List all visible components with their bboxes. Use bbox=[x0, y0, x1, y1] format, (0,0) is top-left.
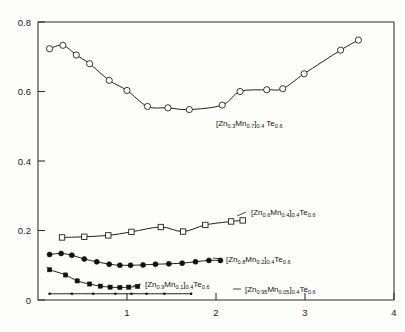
x-tick-label-1: 1 bbox=[124, 307, 129, 318]
series-2 bbox=[47, 251, 223, 268]
series-1-point-7 bbox=[228, 219, 233, 224]
series-4-point-2 bbox=[92, 292, 95, 295]
series-2-point-5 bbox=[107, 262, 112, 267]
series-2-point-1 bbox=[59, 251, 64, 256]
series-3-point-2 bbox=[75, 279, 79, 283]
series-4 bbox=[48, 292, 192, 295]
series-0-point-12 bbox=[280, 86, 286, 92]
series-2-point-6 bbox=[117, 263, 122, 268]
series-4-point-6 bbox=[163, 292, 166, 295]
series-1-point-2 bbox=[106, 233, 111, 238]
series-label-zn08mn02: [Zn0.8Mn0.2]0.4Te0.6 bbox=[226, 255, 291, 265]
series-3-point-3 bbox=[88, 282, 92, 286]
series-4-point-0 bbox=[48, 292, 51, 295]
scatter-line-chart: 0 0.2 0.4 0.6 0.8 1 2 3 4 [Zn0.3Mn0.7]0.… bbox=[0, 0, 405, 332]
series-0-point-0 bbox=[46, 46, 52, 52]
series-2-point-12 bbox=[193, 259, 198, 264]
figure-canvas: 0 0.2 0.4 0.6 0.8 1 2 3 4 [Zn0.3Mn0.7]0.… bbox=[0, 0, 405, 332]
series-2-point-7 bbox=[128, 263, 133, 268]
series-0 bbox=[46, 37, 361, 113]
series-0-point-10 bbox=[237, 88, 243, 94]
series-3-point-0 bbox=[47, 268, 51, 272]
series-annotations: [Zn0.3Mn0.7]0.4 Te0.6 [Zn0.6Mn0.4]0.4Te0… bbox=[145, 119, 316, 295]
series-4-point-3 bbox=[114, 292, 117, 295]
y-axis-tick-labels: 0 0.2 0.4 0.6 0.8 bbox=[18, 17, 31, 306]
series-0-point-6 bbox=[144, 103, 150, 109]
series-0-point-4 bbox=[106, 77, 112, 83]
series-0-point-15 bbox=[355, 37, 361, 43]
series-0-point-2 bbox=[73, 52, 79, 58]
series-0-point-8 bbox=[186, 106, 192, 112]
series-3-point-1 bbox=[63, 273, 67, 277]
series-label-zn06mn04: [Zn0.6Mn0.4]0.4Te0.6 bbox=[251, 208, 316, 218]
x-tick-label-3: 3 bbox=[302, 307, 307, 318]
series-0-point-13 bbox=[301, 71, 307, 77]
y-axis-ticks bbox=[38, 22, 45, 300]
series-3-point-4 bbox=[98, 284, 102, 288]
x-tick-label-2: 2 bbox=[213, 307, 218, 318]
series-0-point-11 bbox=[264, 87, 270, 93]
series-2-point-13 bbox=[206, 258, 211, 263]
series-4-point-4 bbox=[130, 292, 133, 295]
series-1-point-3 bbox=[129, 229, 134, 234]
y-tick-label-0: 0 bbox=[26, 295, 31, 306]
series-1-point-1 bbox=[82, 234, 87, 239]
series-4-point-5 bbox=[145, 292, 148, 295]
series-2-point-2 bbox=[69, 253, 74, 258]
series-4-point-7 bbox=[190, 292, 193, 295]
leader-zn06mn04 bbox=[237, 212, 246, 216]
series-label-zn03mn07: [Zn0.3Mn0.7]0.4 Te0.6 bbox=[216, 119, 283, 129]
series-label-zn09mn01: [Zn0.9Mn0.1]0.4Te0.6 bbox=[145, 280, 210, 290]
series-0-point-14 bbox=[338, 47, 344, 53]
data-series-layer bbox=[46, 37, 361, 295]
series-2-point-0 bbox=[47, 252, 52, 257]
series-2-point-4 bbox=[94, 259, 99, 264]
y-tick-label-0-2: 0.2 bbox=[18, 225, 31, 236]
series-0-curve bbox=[50, 40, 359, 110]
series-2-point-8 bbox=[141, 262, 146, 267]
series-3 bbox=[47, 268, 139, 290]
y-tick-label-0-4: 0.4 bbox=[18, 156, 31, 167]
series-0-point-9 bbox=[219, 102, 225, 108]
series-1-curve bbox=[62, 220, 243, 237]
series-2-point-10 bbox=[166, 261, 171, 266]
series-1-point-5 bbox=[180, 229, 185, 234]
series-2-point-3 bbox=[82, 257, 87, 262]
series-2-point-9 bbox=[153, 262, 158, 267]
series-1-point-8 bbox=[240, 218, 245, 223]
series-label-zn095mn005: [Zn0.95Mn0.05]0.4Te0.6 bbox=[245, 285, 316, 295]
x-tick-label-4: 4 bbox=[391, 307, 396, 318]
y-tick-label-0-8: 0.8 bbox=[18, 17, 31, 28]
series-3-point-5 bbox=[108, 285, 112, 289]
x-axis-tick-labels: 1 2 3 4 bbox=[124, 307, 396, 318]
series-0-point-7 bbox=[165, 105, 171, 111]
series-0-point-1 bbox=[60, 42, 66, 48]
series-3-curve bbox=[50, 270, 138, 288]
series-1 bbox=[59, 218, 245, 240]
series-4-point-1 bbox=[71, 292, 74, 295]
series-3-point-7 bbox=[127, 285, 131, 289]
series-0-point-5 bbox=[124, 87, 130, 93]
series-1-point-0 bbox=[59, 235, 64, 240]
y-tick-label-0-6: 0.6 bbox=[18, 86, 31, 97]
series-3-point-6 bbox=[118, 285, 122, 289]
series-0-point-3 bbox=[87, 61, 93, 67]
series-1-point-6 bbox=[203, 222, 208, 227]
series-1-point-4 bbox=[158, 224, 163, 229]
series-2-point-11 bbox=[180, 261, 185, 266]
